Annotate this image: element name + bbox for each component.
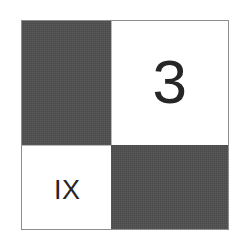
quadrant-square: 3 IX	[21, 20, 229, 230]
quadrant-top-right-label: 3	[153, 21, 228, 113]
quadrant-bottom-right	[111, 145, 228, 229]
quadrant-bottom-left-label: IX	[22, 146, 81, 204]
quadrant-bottom-left: IX	[22, 145, 111, 229]
figure-root: 3 IX	[0, 0, 252, 244]
quadrant-top-right: 3	[111, 21, 228, 145]
quadrant-top-left	[22, 21, 111, 145]
